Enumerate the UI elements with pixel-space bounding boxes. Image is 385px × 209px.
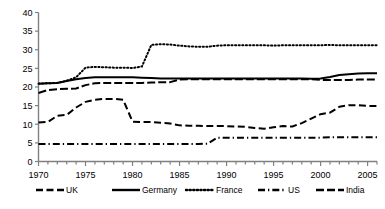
legend-label-germany: Germany xyxy=(142,185,178,195)
legend-label-france: France xyxy=(216,185,243,195)
y-tick-label: 35 xyxy=(22,26,32,36)
x-tick-label: 1980 xyxy=(123,170,143,180)
y-tick-label: 20 xyxy=(22,82,32,92)
x-tick-label: 2000 xyxy=(311,170,331,180)
y-tick-label: 5 xyxy=(27,138,32,148)
y-tick-label: 0 xyxy=(27,157,32,167)
y-tick-label: 40 xyxy=(22,8,32,18)
x-tick-label: 1985 xyxy=(170,170,190,180)
legend-label-uk: UK xyxy=(66,185,78,195)
y-tick-label: 25 xyxy=(22,64,32,74)
chart-canvas: 0510152025303540 19701975198019851990199… xyxy=(0,0,385,209)
x-tick-label: 1990 xyxy=(217,170,237,180)
legend-label-us: US xyxy=(288,185,300,195)
y-tick-label: 30 xyxy=(22,45,32,55)
x-tick-label: 1995 xyxy=(264,170,284,180)
y-tick-label: 15 xyxy=(22,101,32,111)
y-tick-label: 10 xyxy=(22,120,32,130)
x-tick-label: 1970 xyxy=(28,170,48,180)
x-tick-label: 2005 xyxy=(358,170,378,180)
line-chart: 0510152025303540 19701975198019851990199… xyxy=(0,0,385,209)
legend-label-india: India xyxy=(346,185,365,195)
x-tick-label: 1975 xyxy=(75,170,95,180)
